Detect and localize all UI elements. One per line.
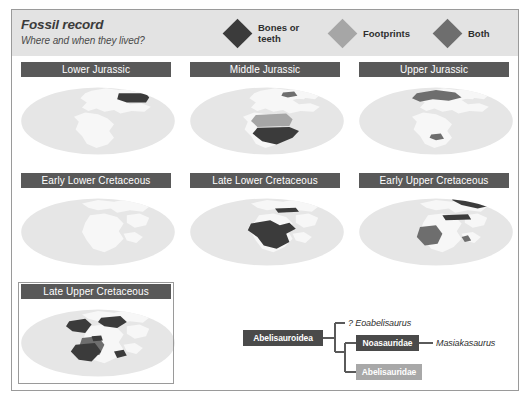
globe-mollweide-icon <box>187 79 347 163</box>
globe-mollweide-icon <box>18 190 178 274</box>
taxon-label: Abelisauroidea <box>253 333 313 343</box>
globe-mollweide-icon <box>356 190 516 274</box>
map-lower-jurassic <box>18 79 178 163</box>
globe-mollweide-icon <box>18 301 178 385</box>
map-late-lower-cretaceous <box>187 190 347 274</box>
era-bar-label: Middle Jurassic <box>230 64 300 75</box>
diamond-icon <box>223 18 253 48</box>
region-north-gondwana <box>251 113 293 126</box>
legend-item-footprints: Footprints <box>332 16 410 50</box>
legend-item-bones-or-teeth: Bones or teeth <box>227 16 299 50</box>
era-bar-lower-jurassic: Lower Jurassic <box>21 62 171 77</box>
taxon-abelisauridae[interactable]: Abelisauridae <box>356 364 422 380</box>
page-title: Fossil record <box>21 17 221 33</box>
legend-label: Both <box>468 28 490 39</box>
cladogram: Abelisauroidea ? Eoabelisaurus Noasaurid… <box>237 310 512 392</box>
map-middle-jurassic <box>187 79 347 163</box>
fossil-record-figure: Fossil record Where and when they lived?… <box>0 0 529 400</box>
era-bar-label: Upper Jurassic <box>400 64 468 75</box>
era-bar-late-lower-cretaceous: Late Lower Cretaceous <box>190 173 340 188</box>
era-bar-label: Late Upper Cretaceous <box>43 286 149 297</box>
region-central-spot <box>92 335 103 341</box>
legend-label: Footprints <box>363 28 410 39</box>
map-early-lower-cretaceous <box>18 190 178 274</box>
era-bar-late-upper-cretaceous: Late Upper Cretaceous <box>21 284 171 299</box>
era-bar-label: Lower Jurassic <box>62 64 130 75</box>
era-bar-early-lower-cretaceous: Early Lower Cretaceous <box>21 173 171 188</box>
globe-mollweide-icon <box>187 190 347 274</box>
page-subtitle: Where and when they lived? <box>21 34 221 48</box>
region-north-africa-strip <box>442 214 471 220</box>
figure-header: Fossil record Where and when they lived?… <box>12 10 518 56</box>
era-bar-upper-jurassic: Upper Jurassic <box>359 62 509 77</box>
globe-mollweide-icon <box>356 79 516 163</box>
era-bar-middle-jurassic: Middle Jurassic <box>190 62 340 77</box>
era-bar-label: Early Upper Cretaceous <box>380 175 489 186</box>
title-block: Fossil record Where and when they lived? <box>21 17 221 48</box>
taxon-masiakasaurus[interactable]: Masiakasaurus <box>436 338 495 348</box>
diamond-icon <box>328 18 358 48</box>
map-upper-jurassic <box>356 79 516 163</box>
region-north-strip <box>275 208 299 213</box>
legend-label: Bones or teeth <box>258 22 299 44</box>
era-bar-label: Late Lower Cretaceous <box>212 175 318 186</box>
taxon-eoabelisaurus[interactable]: ? Eoabelisaurus <box>348 318 411 328</box>
era-bar-label: Early Lower Cretaceous <box>42 175 151 186</box>
globe-mollweide-icon <box>18 79 178 163</box>
diamond-icon <box>433 18 463 48</box>
map-late-upper-cretaceous <box>18 301 178 385</box>
taxon-label: Noasauridae <box>363 338 413 348</box>
legend-item-both: Both <box>437 16 490 50</box>
era-bar-early-upper-cretaceous: Early Upper Cretaceous <box>359 173 509 188</box>
figure-panel: Fossil record Where and when they lived?… <box>11 9 519 391</box>
map-early-upper-cretaceous <box>356 190 516 274</box>
taxon-noasauridae[interactable]: Noasauridae <box>356 335 419 351</box>
taxon-abelisauroidea[interactable]: Abelisauroidea <box>243 330 323 346</box>
taxon-label: Abelisauridae <box>362 367 416 377</box>
